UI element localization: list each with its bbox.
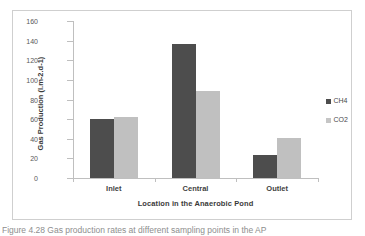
- y-axis-title: Gas Production (l.m-2.d-1): [36, 29, 45, 179]
- legend-label: CH4: [334, 97, 348, 105]
- y-tick-label: 0: [0, 175, 38, 182]
- legend-swatch-icon: [326, 99, 331, 104]
- bar-group: [90, 21, 138, 178]
- y-tick-label: 40: [0, 135, 38, 142]
- bar-co2-inlet[interactable]: [114, 117, 138, 178]
- y-tick-label: 160: [0, 18, 38, 25]
- bar-chart: 020406080100120140160 InletCentralOutlet…: [13, 11, 351, 219]
- legend-swatch-icon: [326, 118, 331, 123]
- x-tick-mark: [318, 178, 319, 182]
- y-tick-label: 140: [0, 37, 38, 44]
- bar-ch4-outlet[interactable]: [253, 155, 277, 178]
- figure-caption: Figure 4.28 Gas production rates at diff…: [2, 225, 362, 236]
- bar-co2-outlet[interactable]: [277, 138, 301, 178]
- y-tick-label: 100: [0, 76, 38, 83]
- bar-co2-central[interactable]: [196, 91, 220, 178]
- x-category-label-inlet: Inlet: [73, 184, 155, 193]
- y-tick-label: 80: [0, 96, 38, 103]
- x-axis-line: [73, 178, 318, 179]
- x-axis-title: Location in the Anaerobic Pond: [73, 199, 318, 208]
- x-category-label-outlet: Outlet: [236, 184, 318, 193]
- legend-label: CO2: [334, 116, 348, 124]
- y-tick-label: 60: [0, 116, 38, 123]
- x-tick-mark: [73, 178, 74, 182]
- x-category-label-central: Central: [155, 184, 237, 193]
- bar-ch4-central[interactable]: [172, 44, 196, 178]
- plot-area: [73, 21, 318, 178]
- x-tick-mark: [236, 178, 237, 182]
- chart-legend: CH4CO2: [326, 97, 365, 135]
- y-tick-label: 20: [0, 155, 38, 162]
- x-tick-mark: [155, 178, 156, 182]
- legend-item-ch4[interactable]: CH4: [326, 97, 365, 105]
- bar-ch4-inlet[interactable]: [90, 119, 114, 178]
- bar-group: [253, 21, 301, 178]
- legend-item-co2[interactable]: CO2: [326, 116, 365, 124]
- chart-figure-frame: 020406080100120140160 InletCentralOutlet…: [12, 10, 352, 220]
- bar-group: [172, 21, 220, 178]
- y-tick-label: 120: [0, 57, 38, 64]
